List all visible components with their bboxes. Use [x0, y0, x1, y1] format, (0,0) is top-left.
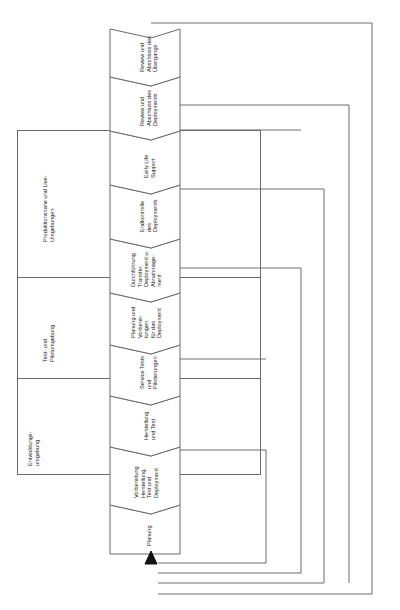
- feedback-loops: [151, 23, 372, 594]
- lane-label-entwicklung: Entwicklungs- umgebung: [27, 431, 40, 466]
- feedback-loop-4: [151, 23, 372, 594]
- feedback-loop-3: [158, 189, 324, 583]
- chevron-label-vorbereitung: Vorbereitung Herstellung, Test und Deplo…: [133, 466, 159, 498]
- diagram-canvas: Planung Vorbereitung Herstellung, Test u…: [0, 0, 400, 610]
- process-diagram: [0, 0, 400, 610]
- chevron-label-review-deployment: Review und Abschluss des Deployments: [139, 90, 159, 126]
- chevron-label-herstellung: Herstellung und Test: [143, 412, 156, 440]
- chevron-label-endkontrolle: Endkontrolle des Deployments: [139, 199, 159, 232]
- chevron-label-service-tests: Service Tests und Pilotierungen: [139, 356, 159, 389]
- lane-label-produktion: Produktionsnahe und Live- Umgebungen: [42, 175, 55, 242]
- chevron-label-early-life-support: Early Life Support: [143, 155, 156, 178]
- chevron-label-review-uebergang: Review und Abschluss des Übergangs: [139, 36, 159, 72]
- chevron-label-planung: Planung: [146, 525, 153, 546]
- chevron-label-durchfuehrung: Durchführung Transfer, Deployment u. Abn…: [130, 251, 163, 287]
- chevron-label-planung-vorbereitungen: Planung und Vorberei- tungen für das Dep…: [130, 307, 163, 338]
- lane-label-test-pilot: Test- und Pilotumgebung: [42, 325, 55, 362]
